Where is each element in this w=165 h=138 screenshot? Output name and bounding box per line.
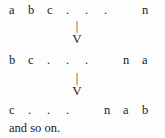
sequence-token: . (66, 102, 85, 118)
sequence-row-3: c . . . n a b (0, 102, 165, 118)
down-arrow-1: | V (66, 20, 88, 45)
sequence-token: . (28, 102, 47, 118)
sequence-row-2: b c . . . n a (0, 52, 165, 68)
sequence-token: . (85, 52, 104, 68)
sequence-token: n (123, 52, 142, 68)
sequence-token: . (66, 2, 85, 18)
sequence-token: b (9, 52, 28, 68)
down-arrow-2: | V (66, 72, 88, 97)
sequence-token: a (123, 102, 142, 118)
sequence-token: b (28, 2, 47, 18)
sequence-token: c (28, 52, 47, 68)
figure-caption: and so on. (9, 120, 60, 136)
sequence-token: . (85, 2, 104, 18)
sequence-token: . (47, 102, 66, 118)
sequence-token: a (9, 2, 28, 18)
cyclic-permutation-figure: a b c . . . n | V b c . . . n a | V c . … (0, 0, 165, 138)
sequence-token: . (104, 2, 123, 18)
sequence-token: c (9, 102, 28, 118)
sequence-token: b (142, 102, 161, 118)
arrow-head-icon: V (66, 84, 88, 97)
sequence-token: n (142, 2, 161, 18)
sequence-token: . (66, 52, 85, 68)
sequence-token: n (104, 102, 123, 118)
arrow-head-icon: V (66, 32, 88, 45)
sequence-token: . (47, 52, 66, 68)
sequence-token: c (47, 2, 66, 18)
sequence-row-1: a b c . . . n (0, 2, 165, 18)
sequence-token: a (142, 52, 161, 68)
